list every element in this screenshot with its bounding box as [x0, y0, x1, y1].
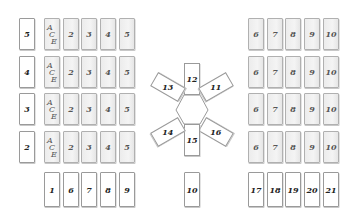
- card-value: 6: [68, 185, 74, 195]
- card[interactable]: 4: [100, 131, 116, 163]
- card[interactable]: 2: [63, 131, 79, 163]
- card-value: 8: [290, 104, 296, 114]
- card[interactable]: 8: [285, 56, 301, 88]
- card[interactable]: 6: [248, 131, 264, 163]
- card-value: 6: [253, 142, 259, 152]
- card[interactable]: 3: [81, 18, 97, 50]
- card-value: 6: [253, 29, 259, 39]
- ace-card[interactable]: ACE: [44, 93, 60, 125]
- ace-letter: E: [51, 38, 57, 45]
- card[interactable]: 3: [81, 56, 97, 88]
- star-card-top[interactable]: 12: [184, 63, 200, 95]
- foundation-card[interactable]: 20: [304, 172, 320, 207]
- card[interactable]: 5: [119, 56, 135, 88]
- card[interactable]: 4: [100, 18, 116, 50]
- foundation-card[interactable]: 9: [119, 172, 135, 207]
- row-label-card[interactable]: 5: [19, 18, 35, 50]
- card[interactable]: 9: [304, 56, 320, 88]
- card[interactable]: 4: [100, 93, 116, 125]
- card[interactable]: 5: [119, 93, 135, 125]
- card[interactable]: 5: [119, 18, 135, 50]
- card-value: 15: [186, 135, 197, 145]
- card[interactable]: 6: [248, 18, 264, 50]
- card-value: 21: [325, 185, 336, 195]
- card[interactable]: 5: [119, 131, 135, 163]
- foundation-card[interactable]: 18: [267, 172, 283, 207]
- foundation-card[interactable]: 8: [100, 172, 116, 207]
- card[interactable]: 7: [267, 18, 283, 50]
- foundation-card[interactable]: 19: [285, 172, 301, 207]
- card-value: 2: [24, 142, 30, 152]
- foundation-card[interactable]: 7: [81, 172, 97, 207]
- row-label-card[interactable]: 4: [19, 56, 35, 88]
- row-label-card[interactable]: 3: [19, 93, 35, 125]
- ace-card[interactable]: ACE: [44, 131, 60, 163]
- card[interactable]: 9: [304, 18, 320, 50]
- ace-card[interactable]: ACE: [44, 56, 60, 88]
- foundation-card[interactable]: 6: [63, 172, 79, 207]
- ace-letter: E: [51, 113, 57, 120]
- card[interactable]: 7: [267, 131, 283, 163]
- star-card-lower-left[interactable]: 14: [150, 117, 186, 147]
- card-value: 3: [24, 104, 30, 114]
- ace-card[interactable]: ACE: [44, 18, 60, 50]
- card-value: 10: [325, 67, 336, 77]
- card-value: 3: [86, 29, 92, 39]
- card-value: 9: [309, 104, 315, 114]
- card-value: 7: [86, 185, 92, 195]
- card-value: 5: [24, 29, 30, 39]
- card-value: 4: [105, 142, 111, 152]
- card-value: 2: [68, 29, 74, 39]
- card-value: 9: [309, 29, 315, 39]
- ace-letter: E: [51, 76, 57, 83]
- foundation-card[interactable]: 1: [44, 172, 60, 207]
- card[interactable]: 7: [267, 93, 283, 125]
- card[interactable]: 4: [100, 56, 116, 88]
- card-value: 16: [210, 127, 221, 137]
- card-value: 7: [272, 142, 278, 152]
- card-value: 10: [186, 185, 197, 195]
- card[interactable]: 7: [267, 56, 283, 88]
- card[interactable]: 6: [248, 93, 264, 125]
- card-value: 1: [49, 185, 55, 195]
- card-value: 7: [272, 104, 278, 114]
- card[interactable]: 2: [63, 18, 79, 50]
- card-value: 18: [269, 185, 280, 195]
- card-value: 2: [68, 67, 74, 77]
- card[interactable]: 3: [81, 93, 97, 125]
- card[interactable]: 9: [304, 131, 320, 163]
- card[interactable]: 10: [323, 131, 339, 163]
- card[interactable]: 8: [285, 18, 301, 50]
- card-value: 5: [124, 67, 130, 77]
- card-value: 5: [124, 104, 130, 114]
- card-value: 19: [287, 185, 298, 195]
- star-card-upper-left[interactable]: 13: [150, 72, 186, 102]
- card[interactable]: 8: [285, 93, 301, 125]
- card[interactable]: 6: [248, 56, 264, 88]
- card[interactable]: 10: [323, 18, 339, 50]
- foundation-card[interactable]: 17: [248, 172, 264, 207]
- card[interactable]: 9: [304, 93, 320, 125]
- card[interactable]: 8: [285, 131, 301, 163]
- card[interactable]: 10: [323, 56, 339, 88]
- card[interactable]: 10: [323, 93, 339, 125]
- card-value: 20: [306, 185, 317, 195]
- card-value: 4: [24, 67, 30, 77]
- center-bottom-card[interactable]: 10: [184, 172, 200, 207]
- card-value: 8: [290, 67, 296, 77]
- card[interactable]: 2: [63, 56, 79, 88]
- card-value: 6: [253, 67, 259, 77]
- card-value: 5: [124, 29, 130, 39]
- card[interactable]: 3: [81, 131, 97, 163]
- star-card-bottom[interactable]: 15: [184, 124, 200, 156]
- card[interactable]: 2: [63, 93, 79, 125]
- card-value: 4: [105, 29, 111, 39]
- card-value: 6: [253, 104, 259, 114]
- row-label-card[interactable]: 2: [19, 131, 35, 163]
- card-value: 9: [309, 67, 315, 77]
- star-card-lower-right[interactable]: 16: [198, 117, 234, 147]
- card-value: 17: [250, 185, 261, 195]
- star-card-upper-right[interactable]: 11: [198, 72, 234, 102]
- foundation-card[interactable]: 21: [323, 172, 339, 207]
- card-value: 7: [272, 67, 278, 77]
